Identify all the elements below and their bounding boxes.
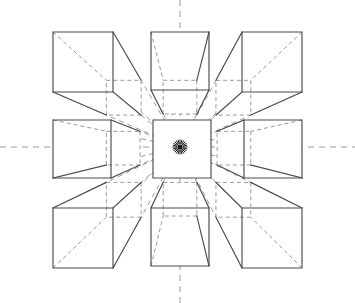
perspective-diagram — [0, 0, 355, 303]
cube-middle-right-silhouette-b — [244, 120, 302, 178]
cube-top-center — [151, 32, 209, 114]
cube-bottom-center — [151, 182, 209, 266]
cube-bottom-left-silhouette-b — [53, 208, 113, 268]
cube-top-right — [216, 32, 302, 115]
cube-bottom-left — [53, 182, 141, 268]
cube-bottom-right — [216, 182, 302, 268]
cube-middle-left-silhouette-b — [53, 120, 111, 178]
cube-top-left-silhouette-b — [53, 32, 113, 92]
vanishing-point-layer — [173, 140, 188, 155]
cube-top-left — [53, 32, 141, 115]
cube-middle-center-fill — [153, 120, 211, 178]
cube-middle-right — [217, 120, 302, 178]
perspective-canvas — [0, 0, 355, 303]
vanishing-point-dot — [177, 144, 182, 149]
cube-middle-left — [53, 120, 140, 178]
cube-top-center-silhouette-b — [151, 32, 209, 90]
cube-middle-center — [153, 120, 211, 178]
cube-bottom-center-silhouette-b — [151, 208, 209, 266]
